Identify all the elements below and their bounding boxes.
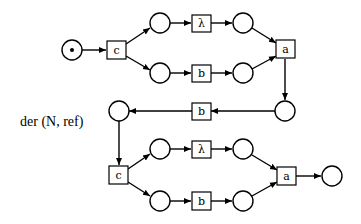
transition-back-b-label: b [198,105,205,118]
arc-lower-to-a2 [252,182,277,196]
token-icon [70,48,74,52]
arc-c-to-lower [126,56,150,70]
petri-net-diagram: c λ b a b der (N, ref) c λ b a [0,0,361,224]
place-after-back-b [109,101,129,121]
place-upper-2 [233,13,253,33]
place-lower-2 [233,63,253,83]
arc-c2-to-lower [128,182,150,196]
arc-upper-to-a2 [252,155,277,170]
bottom-net: c λ b a [109,139,342,211]
place-lower-4 [233,191,253,211]
transition-lambda-label: λ [198,17,205,30]
place-after-a [275,101,295,121]
arc-c-to-upper [126,28,150,44]
place-lower-3 [150,191,170,211]
arc-lower-to-a [252,56,276,69]
final-place [322,166,342,186]
diagram-caption: der (N, ref) [20,114,84,130]
arc-upper-to-a [252,28,276,43]
transition-lambda2-label: λ [198,143,205,156]
transition-c2-label: c [115,169,121,182]
place-lower-1 [150,63,170,83]
place-upper-3 [150,139,170,159]
transition-a2-label: a [283,170,290,183]
arc-c2-to-upper [128,154,150,169]
place-upper-4 [233,139,253,159]
top-net: c λ b a b [62,13,295,165]
transition-a-label: a [282,43,289,56]
transition-b2-label: b [198,195,205,208]
transition-b-label: b [198,67,205,80]
transition-c-label: c [113,44,119,57]
place-upper-1 [150,13,170,33]
